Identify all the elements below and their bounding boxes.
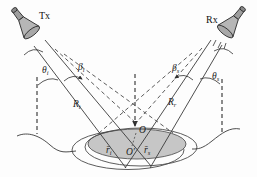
rx-dashed-ray-to-origin [136, 48, 202, 123]
geometry-diagram: Tx Rx θi βi βs θs Rt Rr O O′ r̄i r̄s [0, 0, 257, 177]
tx-label: Tx [39, 10, 50, 21]
tx-range-label: Rt [72, 99, 81, 110]
surface-wave-left [17, 134, 76, 152]
rx-antenna-icon [216, 2, 252, 40]
scattering-angle-label: θs [212, 71, 220, 82]
rx-label: Rx [206, 14, 218, 25]
rx-radiation-marks [213, 40, 226, 49]
theta-i-arc [38, 79, 58, 85]
tx-antenna-icon [6, 3, 42, 41]
rx-range-label: Rr [167, 97, 177, 108]
figure-canvas: Tx Rx θi βi βs θs Rt Rr O O′ r̄i r̄s [0, 0, 257, 177]
tx-dashed-ray-to-origin [55, 49, 136, 123]
origin-label: O [139, 125, 146, 135]
tx-beam-angle-label: βi [77, 62, 85, 73]
origin-prime-label: O′ [126, 147, 136, 157]
surface-wave-right [192, 129, 240, 149]
incidence-angle-label: θi [42, 65, 49, 76]
rx-beam-edge-outer [150, 45, 222, 168]
beta-s-arc [175, 75, 193, 80]
